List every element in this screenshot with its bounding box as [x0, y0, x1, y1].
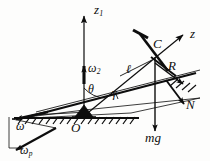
horizontal-plane	[12, 98, 200, 119]
diagram-vector-layer	[0, 0, 210, 161]
label-axis-z1: z1	[94, 3, 103, 18]
label-origin-O: O	[71, 121, 80, 134]
label-point-C: C	[153, 37, 162, 50]
label-theta: θ	[88, 83, 94, 95]
label-force-mg: mg	[145, 131, 161, 144]
label-force-N: N	[186, 98, 195, 111]
label-axis-z: z	[190, 27, 195, 40]
label-omega: ω	[16, 120, 24, 132]
label-length-ell: ℓ	[126, 63, 131, 75]
label-omega2: ω2	[88, 62, 101, 75]
figure-canvas: z1 z ω2 θ γ ℓ C R N mg O ω ωp	[0, 0, 210, 161]
label-omega-p: ωp	[20, 144, 33, 157]
label-force-R: R	[168, 59, 176, 72]
label-gamma: γ	[112, 87, 117, 99]
